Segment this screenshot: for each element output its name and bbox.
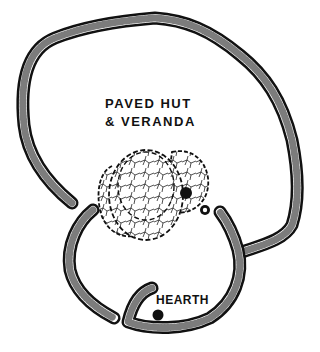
label-hearth: HEARTH — [156, 292, 209, 308]
label-paved-hut: PAVED HUT — [105, 96, 192, 112]
post-hole-marker — [180, 187, 192, 199]
small-stone — [200, 205, 210, 215]
hearth-marker — [153, 310, 164, 321]
label-veranda: & VERANDA — [105, 114, 196, 130]
paved-hut — [109, 150, 183, 240]
